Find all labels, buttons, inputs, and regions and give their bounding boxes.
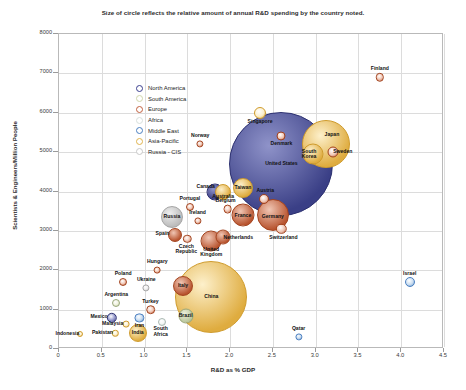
bubble-pakistan[interactable] (112, 330, 118, 336)
bubble-label-qatar: Qatar (292, 327, 305, 332)
chart-root: Size of circle reflects the relative amo… (0, 0, 466, 390)
bubble-south-korea[interactable] (303, 144, 324, 165)
gridline-vertical (401, 34, 402, 347)
bubble-label-israel: Israel (403, 271, 416, 276)
bubble-india[interactable] (129, 324, 147, 342)
legend-item-label: Russia - CIS (148, 149, 181, 155)
y-tick-label: 5000 (10, 147, 52, 153)
legend-item-europe[interactable]: Europe (136, 104, 222, 115)
legend-item-south-america[interactable]: South America (136, 94, 222, 105)
gridline-horizontal (59, 310, 442, 311)
bubble-south-africa[interactable] (158, 318, 166, 326)
legend-item-north-america[interactable]: North America (136, 83, 222, 94)
bubble-switzerland[interactable] (276, 224, 286, 234)
bubble-finland[interactable] (376, 73, 384, 81)
legend-item-label: Middle East (148, 128, 179, 134)
plot-area: IndonesiaPakistanHungaryMalaysiaNorwayIr… (58, 33, 443, 348)
y-tick-label: 3000 (10, 226, 52, 232)
bubble-label-ireland: Ireland (189, 210, 206, 215)
x-tick-label: 4.5 (423, 352, 463, 358)
legend-item-middle-east[interactable]: Middle East (136, 125, 222, 136)
bubble-sweden[interactable] (327, 147, 338, 158)
bubble-italy[interactable] (173, 276, 193, 296)
bubble-taiwan[interactable] (233, 178, 253, 198)
x-axis-label: R&D as % GDP (0, 366, 466, 373)
bubble-label-indonesia: Indonesia (55, 331, 79, 336)
x-tick-label: 3.0 (295, 352, 335, 358)
bubble-label-finland: Finland (371, 67, 389, 72)
bubble-belgium[interactable] (223, 205, 232, 214)
y-tick-label: 6000 (10, 108, 52, 114)
gridline-horizontal (59, 113, 442, 114)
bubble-indonesia[interactable] (77, 331, 83, 337)
x-tick-label: 2.0 (209, 352, 249, 358)
chart-legend: North AmericaSouth AmericaEuropeAfricaMi… (136, 83, 222, 157)
y-tick-label: 8000 (10, 29, 52, 35)
x-tick-label: 4.0 (380, 352, 420, 358)
bubble-mexico[interactable] (107, 312, 117, 322)
bubble-brazil[interactable] (178, 309, 193, 324)
bubble-iran[interactable] (135, 313, 144, 322)
bubble-label-poland: Poland (115, 271, 132, 276)
legend-item-africa[interactable]: Africa (136, 115, 222, 126)
bubble-label-hungary: Hungary (147, 260, 168, 265)
gridline-vertical (145, 34, 146, 347)
chart-title: Size of circle reflects the relative amo… (0, 9, 466, 16)
y-tick-label: 1000 (10, 305, 52, 311)
bubble-argentina[interactable] (112, 299, 120, 307)
legend-swatch-icon (136, 85, 143, 92)
bubble-austria[interactable] (259, 194, 269, 204)
gridline-horizontal (59, 231, 442, 232)
bubble-netherlands[interactable] (216, 229, 231, 244)
gridline-vertical (358, 34, 359, 347)
legend-item-label: North America (148, 85, 185, 91)
x-tick-label: 0.5 (81, 352, 121, 358)
bubble-qatar[interactable] (295, 334, 302, 341)
y-tick-label: 2000 (10, 265, 52, 271)
gridline-horizontal (59, 270, 442, 271)
y-tick-mark (53, 348, 58, 349)
legend-item-label: Europe (148, 106, 167, 112)
gridline-vertical (444, 34, 445, 347)
bubble-ireland[interactable] (194, 217, 201, 224)
x-tick-label: 1.0 (124, 352, 164, 358)
y-tick-label: 7000 (10, 68, 52, 74)
bubble-ukraine[interactable] (143, 284, 150, 291)
legend-item-label: Africa (148, 117, 163, 123)
gridline-vertical (102, 34, 103, 347)
bubble-label-czech-republic: CzechRepublic (176, 243, 198, 254)
bubble-australia[interactable] (215, 184, 231, 200)
bubble-singapore[interactable] (254, 107, 266, 119)
bubble-label-mexico: Mexico (90, 314, 107, 319)
legend-item-label: South America (148, 96, 186, 102)
y-tick-label: 0 (10, 344, 52, 350)
legend-item-label: Asia-Pacific (148, 138, 179, 144)
bubble-label-portugal: Portugal (180, 197, 201, 202)
y-tick-label: 4000 (10, 187, 52, 193)
bubble-france[interactable] (231, 204, 254, 227)
bubble-denmark[interactable] (277, 132, 286, 141)
gridline-horizontal (59, 73, 442, 74)
bubble-label-ukraine: Ukraine (137, 277, 156, 282)
legend-swatch-icon (136, 117, 143, 124)
x-tick-label: 1.5 (166, 352, 206, 358)
legend-item-russia-cis[interactable]: Russia - CIS (136, 147, 222, 158)
bubble-label-argentina: Argentina (104, 292, 128, 297)
bubble-portugal[interactable] (186, 203, 194, 211)
x-tick-label: 0 (38, 352, 78, 358)
bubble-malaysia[interactable] (122, 320, 129, 327)
bubble-spain[interactable] (168, 228, 182, 242)
bubble-label-belgium: Belgium (215, 199, 235, 204)
x-tick-label: 3.5 (337, 352, 377, 358)
bubble-israel[interactable] (405, 277, 415, 287)
bubble-poland[interactable] (119, 278, 127, 286)
bubble-hungary[interactable] (154, 267, 161, 274)
legend-swatch-icon (136, 106, 143, 113)
legend-swatch-icon (136, 127, 143, 134)
bubble-czech-republic[interactable] (183, 235, 191, 243)
legend-swatch-icon (136, 148, 143, 155)
bubble-russia[interactable] (161, 206, 183, 228)
bubble-turkey[interactable] (146, 305, 156, 315)
x-tick-label: 2.5 (252, 352, 292, 358)
legend-item-asia-pacific[interactable]: Asia-Pacific (136, 136, 222, 147)
